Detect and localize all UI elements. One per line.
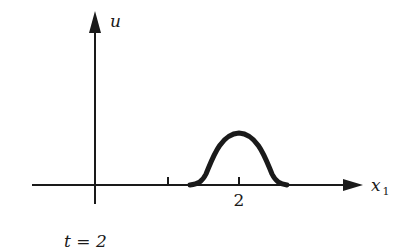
tick-label-2: 2: [234, 190, 245, 210]
caption-time: t = 2: [64, 231, 107, 251]
u-axis-arrowhead-icon: [89, 11, 101, 33]
u-axis-label: u: [110, 11, 121, 31]
x-axis-label: x1: [371, 175, 390, 198]
diagram-canvas: u x1 2 t = 2: [0, 0, 410, 251]
x-axis-arrowhead-icon: [343, 179, 363, 191]
x-axis-label-subscript: 1: [383, 185, 390, 198]
